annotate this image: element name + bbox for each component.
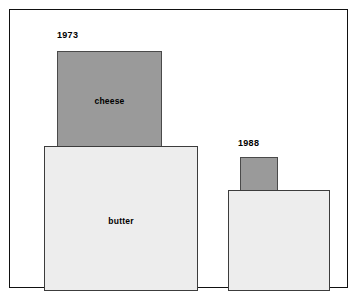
box-1973-butter: butter	[44, 146, 198, 291]
box-label-1973-cheese: cheese	[58, 96, 161, 106]
box-label-1973-butter: butter	[45, 216, 197, 226]
plot-frame: 1973 cheese butter 1988	[9, 9, 348, 288]
figure-canvas: 1973 cheese butter 1988	[0, 0, 356, 298]
box-1988-butter	[228, 190, 330, 291]
year-label-1973: 1973	[57, 30, 78, 41]
box-1988-cheese	[240, 157, 278, 191]
year-label-1988: 1988	[238, 138, 259, 149]
box-1973-cheese: cheese	[57, 51, 162, 147]
